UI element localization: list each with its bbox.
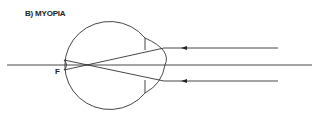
myopia-diagram (0, 0, 316, 113)
converging-ray-upper (64, 48, 164, 70)
eyeball (65, 22, 145, 110)
arrow-lower-icon (181, 79, 187, 83)
arrow-upper-icon (181, 46, 187, 50)
cornea (145, 38, 166, 93)
converging-ray-lower (64, 60, 164, 81)
